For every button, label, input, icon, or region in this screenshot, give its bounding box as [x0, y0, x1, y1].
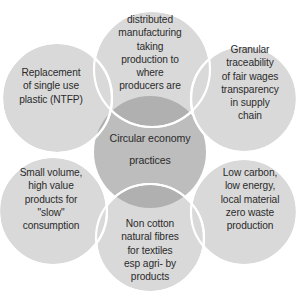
venn-diagram-graphic	[0, 0, 298, 298]
circular-economy-diagram: distributed manufacturing taking product…	[0, 0, 298, 298]
